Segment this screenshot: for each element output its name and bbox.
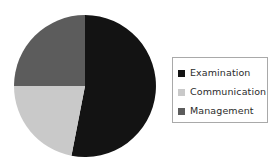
legend-label-management: Management	[190, 106, 254, 116]
legend-label-examination: Examination	[190, 68, 250, 78]
legend-item-communication[interactable]: Communication	[178, 83, 267, 101]
legend-label-communication: Communication	[190, 87, 266, 97]
legend-item-examination[interactable]: Examination	[178, 64, 267, 82]
pie-chart-figure: Examination Communication Management	[0, 0, 279, 168]
legend-swatch-management	[178, 108, 185, 115]
pie-slice-group	[14, 15, 156, 157]
pie-svg	[0, 0, 170, 168]
pie-slice-management[interactable]	[14, 15, 85, 86]
legend-item-management[interactable]: Management	[178, 102, 267, 120]
legend-swatch-communication	[178, 89, 185, 96]
chart-legend: Examination Communication Management	[172, 57, 268, 123]
pie-chart-plot-area	[0, 0, 170, 168]
legend-swatch-examination	[178, 70, 185, 77]
